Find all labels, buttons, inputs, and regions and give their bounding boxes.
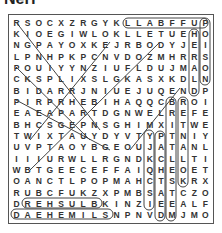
grid-cell[interactable]: X [155,74,166,85]
grid-cell[interactable]: Y [78,142,89,153]
grid-cell[interactable]: S [167,176,178,187]
grid-cell[interactable]: G [111,74,122,85]
grid-cell[interactable]: C [155,153,166,164]
grid-cell[interactable]: U [144,85,155,96]
grid-cell[interactable]: D [133,153,144,164]
grid-cell[interactable]: R [33,96,44,107]
grid-cell[interactable]: I [44,62,55,73]
grid-cell[interactable]: S [55,198,66,209]
grid-cell[interactable]: S [200,51,211,62]
grid-cell[interactable]: M [155,51,166,62]
grid-cell[interactable]: T [200,164,211,175]
grid-cell[interactable]: Y [144,130,155,141]
grid-cell[interactable]: M [167,210,178,221]
grid-cell[interactable]: M [178,62,189,73]
grid-cell[interactable]: E [55,210,66,221]
grid-cell[interactable]: T [133,130,144,141]
grid-cell[interactable]: O [133,51,144,62]
grid-cell[interactable]: V [22,142,33,153]
grid-cell[interactable]: L [89,210,100,221]
grid-cell[interactable]: I [22,153,33,164]
grid-cell[interactable]: G [111,119,122,130]
grid-cell[interactable]: Y [200,130,211,141]
grid-cell[interactable]: O [33,28,44,39]
grid-cell[interactable]: E [200,108,211,119]
grid-cell[interactable]: X [55,17,66,28]
grid-cell[interactable]: M [189,210,200,221]
grid-cell[interactable]: W [78,28,89,39]
grid-cell[interactable]: C [11,74,22,85]
grid-cell[interactable]: D [155,210,166,221]
grid-cell[interactable]: B [133,40,144,51]
grid-cell[interactable]: O [200,62,211,73]
grid-cell[interactable]: X [78,40,89,51]
grid-cell[interactable]: K [11,28,22,39]
grid-cell[interactable]: N [33,51,44,62]
grid-cell[interactable]: N [122,108,133,119]
grid-cell[interactable]: Y [67,62,78,73]
grid-cell[interactable]: P [44,96,55,107]
grid-cell[interactable]: R [189,176,200,187]
grid-cell[interactable]: I [200,40,211,51]
grid-cell[interactable]: X [100,187,111,198]
grid-cell[interactable]: E [178,28,189,39]
grid-cell[interactable]: U [111,85,122,96]
grid-cell[interactable]: L [78,198,89,209]
grid-cell[interactable]: Y [55,40,66,51]
grid-cell[interactable]: L [55,74,66,85]
grid-cell[interactable]: L [178,153,189,164]
grid-cell[interactable]: Z [189,187,200,198]
grid-cell[interactable]: X [200,176,211,187]
grid-cell[interactable]: H [44,210,55,221]
grid-cell[interactable]: I [133,164,144,175]
grid-cell[interactable]: C [44,176,55,187]
grid-cell[interactable]: O [178,164,189,175]
grid-cell[interactable]: P [78,119,89,130]
grid-cell[interactable]: K [167,74,178,85]
grid-cell[interactable]: I [133,119,144,130]
grid-cell[interactable]: P [55,108,66,119]
grid-cell[interactable]: O [89,176,100,187]
grid-cell[interactable]: H [44,198,55,209]
grid-cell[interactable]: I [144,198,155,209]
grid-cell[interactable]: L [122,17,133,28]
grid-cell[interactable]: E [55,164,66,175]
grid-cell[interactable]: I [33,130,44,141]
grid-cell[interactable]: W [189,119,200,130]
grid-cell[interactable]: R [178,51,189,62]
grid-cell[interactable]: R [78,17,89,28]
grid-cell[interactable]: L [122,28,133,39]
grid-cell[interactable]: L [155,108,166,119]
grid-cell[interactable]: X [44,130,55,141]
grid-cell[interactable]: Y [55,62,66,73]
grid-cell[interactable]: A [22,210,33,221]
grid-cell[interactable]: N [11,40,22,51]
grid-cell[interactable]: L [189,198,200,209]
grid-cell[interactable]: N [89,119,100,130]
grid-cell[interactable]: W [133,108,144,119]
grid-cell[interactable]: B [11,85,22,96]
grid-cell[interactable]: T [167,187,178,198]
grid-cell[interactable]: U [33,62,44,73]
grid-cell[interactable]: K [22,74,33,85]
grid-cell[interactable]: A [144,17,155,28]
grid-cell[interactable]: K [178,176,189,187]
grid-cell[interactable]: I [22,85,33,96]
grid-cell[interactable]: E [178,108,189,119]
grid-cell[interactable]: C [44,187,55,198]
grid-cell[interactable]: I [167,119,178,130]
grid-cell[interactable]: M [144,119,155,130]
grid-cell[interactable]: B [33,187,44,198]
grid-cell[interactable]: F [55,187,66,198]
grid-cell[interactable]: N [133,210,144,221]
grid-cell[interactable]: S [89,74,100,85]
grid-cell[interactable]: J [133,85,144,96]
grid-cell[interactable]: D [144,62,155,73]
grid-cell[interactable]: H [111,96,122,107]
grid-cell[interactable]: I [33,153,44,164]
grid-cell[interactable]: L [167,153,178,164]
grid-cell[interactable]: Y [111,130,122,141]
grid-cell[interactable]: E [33,198,44,209]
grid-cell[interactable]: E [189,164,200,175]
grid-cell[interactable]: L [189,74,200,85]
